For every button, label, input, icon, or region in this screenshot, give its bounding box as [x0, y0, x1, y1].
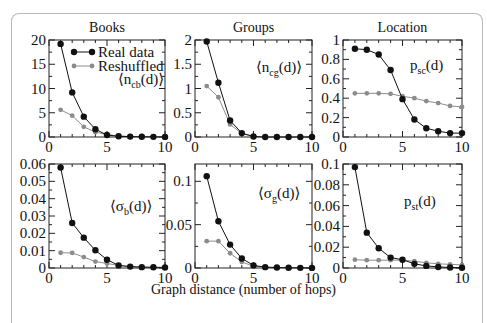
real-data-point — [297, 265, 303, 271]
y-tick-label: 1 — [185, 81, 193, 97]
real-data-point — [227, 117, 233, 123]
panel-annotation: ⟨σg(d)⟩ — [258, 185, 300, 204]
y-tick-label: 0.01 — [20, 243, 46, 259]
real-data-point — [262, 134, 268, 140]
real-data-point — [387, 254, 393, 260]
chart-panel-1: Books051005101520⟨ncb(d)⟩Real dataReshuf… — [31, 20, 173, 155]
real-data-point — [81, 234, 87, 240]
real-data-point — [309, 134, 315, 140]
reshuffled-point — [81, 255, 86, 260]
real-data-point — [127, 133, 133, 139]
real-data-point — [447, 264, 453, 270]
y-tick-label: 0.08 — [314, 177, 340, 193]
y-tick-label: 0.8 — [321, 51, 340, 67]
y-tick-label: 0.04 — [314, 218, 341, 234]
reshuffled-line — [61, 110, 165, 137]
real-data-point — [150, 134, 156, 140]
reshuffled-point — [364, 258, 369, 263]
y-tick-label: 0.4 — [321, 90, 340, 106]
real-data-point — [297, 134, 303, 140]
reshuffled-point — [448, 104, 453, 109]
reshuffled-point — [460, 105, 465, 110]
real-data-point — [423, 125, 429, 131]
real-data-point — [162, 264, 168, 270]
real-data-point — [227, 241, 233, 247]
reshuffled-point — [70, 251, 75, 256]
chart-panel-3: Location051000.20.40.60.81psc(d) — [321, 20, 469, 155]
real-data-point — [423, 263, 429, 269]
reshuffled-point — [353, 91, 358, 96]
y-tick-label: 0.02 — [20, 225, 46, 241]
real-data-point — [262, 264, 268, 270]
real-data-point — [435, 264, 441, 270]
reshuffled-point — [388, 91, 393, 96]
real-data-point — [411, 116, 417, 122]
real-data-point — [459, 264, 465, 270]
y-tick-label: 0.1 — [321, 156, 340, 172]
reshuffled-point — [204, 84, 209, 89]
real-data-point — [387, 67, 393, 73]
real-data-point — [285, 265, 291, 271]
y-tick-label: 0.04 — [20, 191, 47, 207]
real-data-point — [92, 126, 98, 132]
real-data-point — [239, 130, 245, 136]
real-data-point — [399, 96, 405, 102]
reshuffled-point — [364, 91, 369, 96]
y-tick-label: 0 — [333, 260, 341, 276]
y-tick-label: 0.5 — [173, 105, 192, 121]
y-tick-label: 10 — [31, 81, 46, 97]
real-data-point — [435, 128, 441, 134]
real-data-point — [139, 264, 145, 270]
x-tick-label: 0 — [45, 139, 53, 155]
plot-box — [343, 40, 462, 137]
real-data-point — [447, 130, 453, 136]
real-data-point — [115, 133, 121, 139]
y-tick-label: 1.5 — [173, 56, 192, 72]
real-data-point — [364, 47, 370, 53]
y-tick-label: 0 — [185, 129, 193, 145]
chart-panel-4: 051000.010.020.030.040.050.06⟨σb(d)⟩ — [20, 156, 173, 286]
chart-panel-2: Groups051000.511.52⟨ncg(d)⟩ — [173, 20, 319, 155]
real-data-line — [61, 167, 165, 267]
reshuffled-point — [81, 124, 86, 129]
y-tick-label: 0 — [333, 129, 341, 145]
plot-box — [195, 164, 312, 268]
x-axis-label: Graph distance (number of hops) — [0, 282, 487, 298]
x-tick-label: 5 — [103, 139, 111, 155]
real-data-point — [162, 134, 168, 140]
reshuffled-point — [216, 239, 221, 244]
reshuffled-point — [58, 107, 63, 112]
x-tick-label: 10 — [158, 139, 173, 155]
panel-annotation: ⟨σb(d)⟩ — [110, 198, 152, 217]
panel-title: Groups — [233, 20, 274, 35]
reshuffled-point — [436, 101, 441, 106]
real-data-point — [459, 130, 465, 136]
y-tick-label: 15 — [31, 56, 46, 72]
y-tick-label: 0 — [39, 260, 47, 276]
real-data-point — [399, 256, 405, 262]
panel-annotation: psc(d) — [410, 57, 443, 76]
reshuffled-point — [216, 95, 221, 100]
real-data-line — [207, 41, 312, 137]
panel-title: Location — [378, 20, 428, 35]
panel-annotation: ⟨ncg(d)⟩ — [256, 59, 302, 78]
real-data-point — [352, 164, 358, 170]
x-tick-label: 5 — [250, 139, 258, 155]
reshuffled-point — [58, 250, 63, 255]
y-tick-label: 0.06 — [20, 156, 47, 172]
real-data-point — [139, 134, 145, 140]
y-tick-label: 0.6 — [321, 71, 340, 87]
real-data-point — [57, 164, 63, 170]
y-tick-label: 20 — [31, 32, 46, 48]
real-data-point — [250, 262, 256, 268]
reshuffled-point — [376, 258, 381, 263]
y-tick-label: 0.03 — [20, 208, 46, 224]
reshuffled-line — [61, 253, 165, 268]
reshuffled-point — [204, 239, 209, 244]
real-data-point — [376, 245, 382, 251]
plot-box — [343, 164, 462, 268]
real-data-point — [81, 113, 87, 119]
chart-panel-6: 051000.020.040.060.080.1pst(d) — [314, 156, 470, 286]
real-data-line — [355, 167, 462, 268]
real-data-point — [104, 132, 110, 138]
